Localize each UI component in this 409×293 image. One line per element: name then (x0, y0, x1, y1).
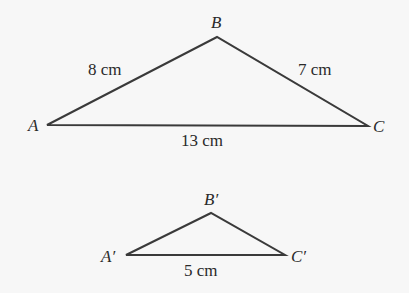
vertex-label-b: B (211, 14, 221, 31)
similar-triangles-diagram: B A C 8 cm 7 cm 13 cm B′ A′ C′ 5 cm (0, 0, 409, 293)
side-label-ab: 8 cm (88, 61, 122, 78)
small-triangle-abc-prime (126, 213, 285, 255)
side-label-ac-prime: 5 cm (184, 262, 218, 279)
vertex-label-b-prime: B′ (204, 191, 218, 208)
large-triangle-abc (47, 37, 368, 126)
vertex-label-c-prime: C′ (291, 248, 306, 265)
vertex-label-a-prime: A′ (101, 248, 115, 265)
vertex-label-c: C (373, 118, 384, 135)
side-label-ac: 13 cm (181, 132, 223, 149)
vertex-label-a: A (28, 117, 38, 134)
side-label-bc: 7 cm (298, 61, 332, 78)
